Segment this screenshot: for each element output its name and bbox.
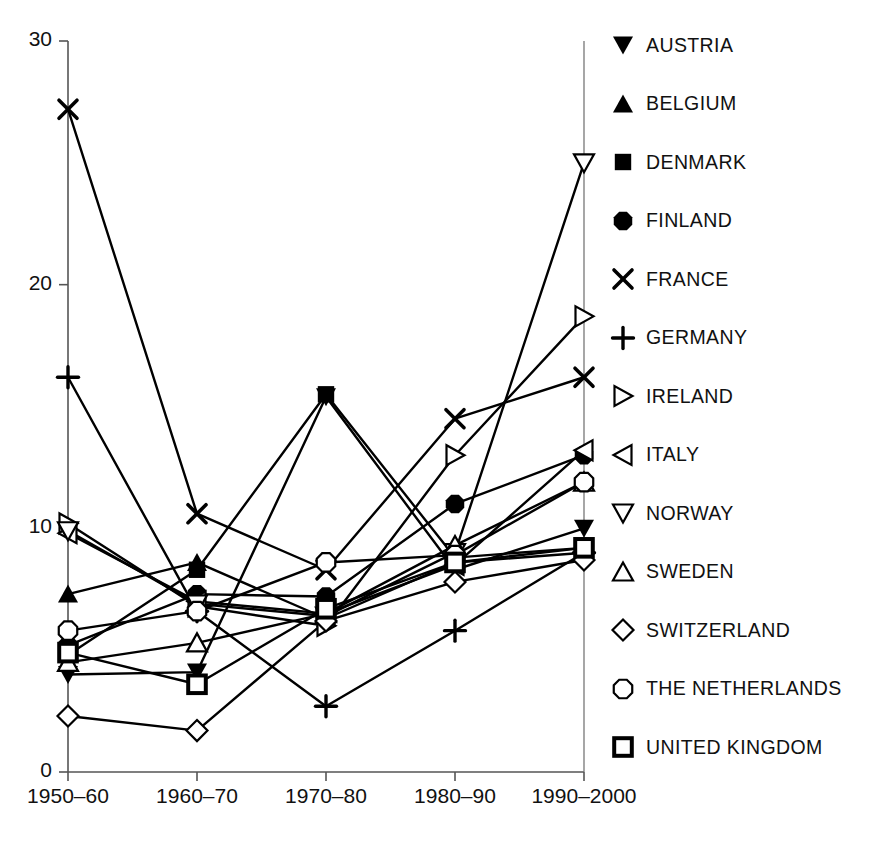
legend-item[interactable]: ITALY (600, 440, 699, 470)
data-point (574, 520, 594, 538)
y-axis-tick-label: 30 (0, 27, 52, 51)
series-line (68, 316, 584, 625)
legend-item[interactable]: DENMARK (600, 147, 746, 177)
series-markers (58, 100, 595, 741)
series-line (68, 109, 584, 570)
legend-item[interactable]: SWEDEN (600, 557, 734, 587)
chart-legend: AUSTRIABELGIUMDENMARKFINLANDFRANCEGERMAN… (600, 0, 892, 841)
legend-item-label: THE NETHERLANDS (646, 677, 842, 700)
legend-item-label: SWITZERLAND (646, 619, 790, 642)
legend-item-label: NORWAY (646, 502, 734, 525)
legend-item-label: FINLAND (646, 209, 732, 232)
data-point (317, 600, 335, 618)
triangle-down-open-icon (600, 498, 646, 528)
legend-item[interactable]: IRELAND (600, 381, 733, 411)
legend-item-label: GERMANY (646, 326, 747, 349)
legend-item-label: IRELAND (646, 385, 733, 408)
triangle-right-open-icon (600, 381, 646, 411)
triangle-left-open-icon (600, 440, 646, 470)
legend-item-label: FRANCE (646, 268, 729, 291)
data-point (445, 620, 466, 641)
legend-item-label: DENMARK (646, 151, 746, 174)
square-filled-icon (600, 147, 646, 177)
triangle-down-filled-icon (600, 30, 646, 60)
data-point (188, 675, 206, 693)
legend-item[interactable]: GERMANY (600, 323, 747, 353)
plus-icon (600, 323, 646, 353)
legend-item[interactable]: THE NETHERLANDS (600, 674, 842, 704)
legend-item[interactable]: AUSTRIA (600, 30, 733, 60)
legend-item[interactable]: SWITZERLAND (600, 615, 790, 645)
legend-item-label: UNITED KINGDOM (646, 736, 823, 759)
series-lines (68, 109, 584, 730)
chart-page: AUSTRIABELGIUMDENMARKFINLANDFRANCEGERMAN… (0, 0, 892, 841)
y-axis-tick-label: 10 (0, 514, 52, 538)
octagon-filled-icon (600, 206, 646, 236)
data-point (446, 495, 464, 513)
data-point (59, 644, 77, 662)
data-point (316, 696, 337, 717)
data-point (188, 505, 206, 523)
legend-item[interactable]: UNITED KINGDOM (600, 732, 823, 762)
data-point (575, 539, 593, 557)
data-point (446, 554, 464, 572)
data-point (575, 473, 593, 491)
legend-item-label: AUSTRIA (646, 34, 733, 57)
legend-item[interactable]: BELGIUM (600, 89, 737, 119)
diamond-open-icon (600, 615, 646, 645)
triangle-up-filled-icon (600, 89, 646, 119)
legend-item-label: SWEDEN (646, 560, 734, 583)
y-axis-tick-label: 20 (0, 271, 52, 295)
data-point (574, 154, 594, 172)
triangle-up-open-icon (600, 557, 646, 587)
octagon-open-icon (600, 674, 646, 704)
data-point (446, 410, 464, 428)
series-line (68, 377, 584, 706)
data-point (59, 621, 77, 639)
legend-item[interactable]: FRANCE (600, 264, 729, 294)
data-point (317, 553, 335, 571)
y-axis-tick-label: 0 (0, 758, 52, 782)
data-point (189, 562, 205, 578)
square-open-icon (600, 732, 646, 762)
legend-item-label: BELGIUM (646, 92, 737, 115)
legend-item[interactable]: FINLAND (600, 206, 732, 236)
legend-item[interactable]: NORWAY (600, 498, 734, 528)
data-point (58, 705, 79, 726)
data-point (188, 602, 206, 620)
data-point (318, 386, 334, 402)
x-axis-tick-label: 1990–2000 (499, 784, 669, 808)
legend-item-label: ITALY (646, 443, 699, 466)
data-point (58, 367, 79, 388)
x-icon (600, 264, 646, 294)
